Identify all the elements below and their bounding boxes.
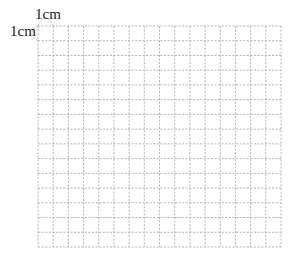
grid-canvas	[0, 0, 293, 253]
cell-width-label: 1cm	[35, 7, 61, 22]
grid-lines	[38, 26, 281, 247]
cell-height-label: 1cm	[10, 24, 36, 39]
